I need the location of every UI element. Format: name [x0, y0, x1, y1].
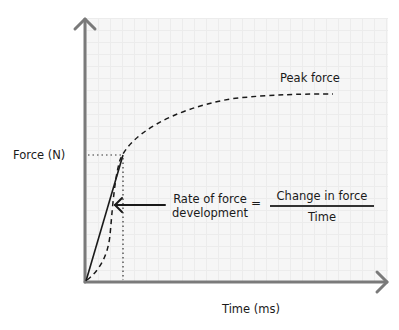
- y-axis-label: Force (N): [13, 149, 65, 162]
- rfd-label: Rate of force development: [170, 192, 250, 220]
- rfd-pointer-arrow-icon: [115, 198, 165, 212]
- rfd-label-line2: development: [172, 206, 248, 220]
- equals-sign: =: [251, 197, 261, 210]
- x-axis-label: Time (ms): [222, 303, 280, 316]
- rfd-fraction: Change in force Time: [270, 189, 374, 224]
- diagram-canvas: [0, 0, 399, 330]
- force-time-curve: [87, 94, 333, 280]
- rfd-label-line1: Rate of force: [173, 192, 247, 206]
- fraction-numerator: Change in force: [270, 189, 374, 205]
- axes: [75, 19, 387, 292]
- fraction-denominator: Time: [270, 207, 374, 224]
- peak-force-label: Peak force: [280, 72, 340, 85]
- rfd-slope-line: [86, 155, 123, 281]
